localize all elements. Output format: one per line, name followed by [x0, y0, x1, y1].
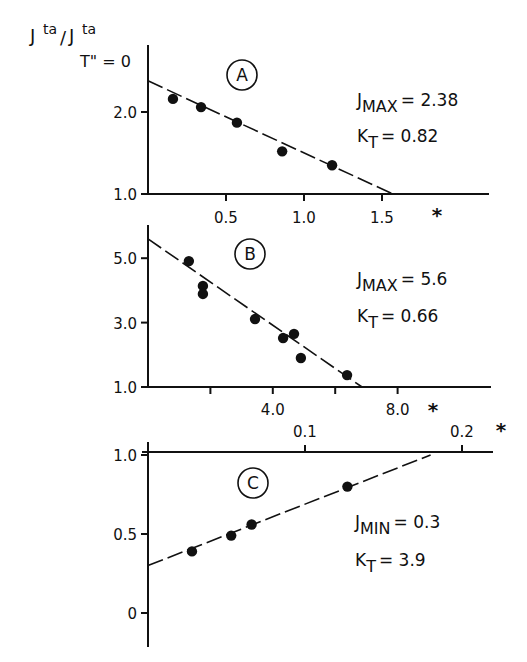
- kt-annotation: KT= 3.9: [355, 550, 426, 576]
- panel-b: 1.03.05.04.08.0*BJMAX= 5.6KT= 0.66: [113, 225, 491, 422]
- data-point: [296, 353, 306, 363]
- panel-a: 1.02.00.51.01.5*AJMAX= 2.38KT= 0.82: [113, 45, 489, 227]
- y-title-sup2: ta: [82, 21, 96, 37]
- y-title-slash: /: [60, 27, 67, 48]
- data-point: [187, 546, 197, 556]
- y-tick-label: 1.0: [113, 186, 137, 204]
- data-point: [277, 146, 287, 156]
- data-point: [250, 314, 260, 324]
- y-tick-label: 0.5: [113, 526, 137, 544]
- x-tick-label: 0.2: [450, 423, 474, 441]
- x-axis-label-star: *: [432, 203, 443, 227]
- j-annotation: JMIN= 0.3: [354, 512, 440, 538]
- y-title-sup1: ta: [43, 21, 57, 37]
- x-tick-label: 0.1: [293, 423, 317, 441]
- y-title-j1: J: [29, 25, 35, 46]
- x-tick-label: 0.5: [214, 209, 238, 227]
- figure: J ta / J ta T" = 0 1.02.00.51.01.5*AJMAX…: [0, 0, 527, 662]
- annotation-value: = 3.9: [379, 550, 426, 570]
- x-axis-label-star: *: [496, 418, 507, 442]
- annotation-value: = 0.82: [381, 126, 439, 146]
- annotation-subscript: T: [367, 313, 378, 332]
- annotation-value: = 0.3: [394, 512, 441, 532]
- data-point: [198, 289, 208, 299]
- data-point: [246, 519, 256, 529]
- panel-label: A: [236, 65, 248, 85]
- panel-c: 00.51.00.10.2*CJMIN= 0.3KT= 3.9: [113, 418, 507, 647]
- x-tick-label: 1.0: [292, 209, 316, 227]
- data-point: [226, 530, 236, 540]
- data-point: [278, 333, 288, 343]
- y-title-j2: J: [68, 25, 74, 46]
- data-point: [289, 329, 299, 339]
- j-annotation: JMAX= 5.6: [356, 269, 447, 295]
- panel-label: C: [247, 473, 259, 493]
- annotation-value: = 2.38: [401, 90, 459, 110]
- panels: 1.02.00.51.01.5*AJMAX= 2.38KT= 0.821.03.…: [113, 45, 507, 647]
- annotation-subscript: MAX: [362, 97, 398, 116]
- annotation-value: = 5.6: [401, 269, 448, 289]
- y-tick-label: 1.0: [113, 379, 137, 397]
- data-point: [232, 117, 242, 127]
- y-tick-label: 3.0: [113, 315, 137, 333]
- x-tick-label: 1.5: [370, 209, 394, 227]
- x-axis-label-star: *: [428, 398, 439, 422]
- y-tick-label: 0: [127, 605, 137, 623]
- annotation-subscript: T: [365, 557, 376, 576]
- annotation-value: = 0.66: [381, 306, 439, 326]
- chart-canvas: J ta / J ta T" = 0 1.02.00.51.01.5*AJMAX…: [0, 0, 527, 662]
- data-point: [327, 160, 337, 170]
- data-point: [168, 94, 178, 104]
- x-tick-label: 8.0: [386, 401, 410, 419]
- j-annotation: JMAX= 2.38: [356, 90, 458, 116]
- data-point: [342, 370, 352, 380]
- y-tick-label: 1.0: [113, 447, 137, 465]
- annotation-subscript: MAX: [362, 276, 398, 295]
- kt-annotation: KT= 0.82: [357, 126, 438, 152]
- y-tick-label: 5.0: [113, 250, 137, 268]
- data-point: [342, 481, 352, 491]
- panel-label: B: [244, 244, 256, 264]
- kt-annotation: KT= 0.66: [357, 306, 438, 332]
- annotation-subscript: T: [367, 133, 378, 152]
- y-axis-title: J ta / J ta T" = 0: [29, 21, 131, 71]
- y-title-sub: T" = 0: [79, 52, 131, 71]
- data-point: [196, 102, 206, 112]
- data-point: [184, 256, 194, 266]
- annotation-subscript: MIN: [360, 519, 391, 538]
- x-tick-label: 4.0: [261, 401, 285, 419]
- y-tick-label: 2.0: [113, 104, 137, 122]
